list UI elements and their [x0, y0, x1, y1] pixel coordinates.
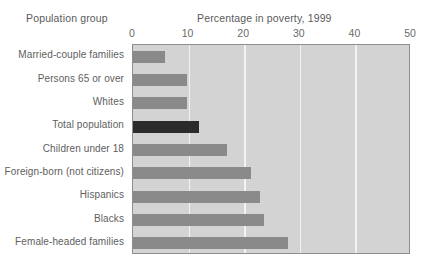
category-label: Female-headed families — [15, 236, 124, 247]
category-label: Whites — [93, 96, 124, 107]
x-tick-label: 40 — [349, 27, 361, 39]
category-label: Hispanics — [80, 189, 124, 200]
x-tick-label: 10 — [182, 27, 194, 39]
bar — [133, 74, 187, 86]
bar — [133, 167, 251, 179]
category-labels: Married-couple familiesPersons 65 or ove… — [0, 44, 128, 254]
category-label: Children under 18 — [43, 143, 124, 154]
x-tick-label: 20 — [237, 27, 249, 39]
poverty-bar-chart-figure: Population group Percentage in poverty, … — [0, 0, 425, 277]
x-tick-label: 0 — [129, 27, 135, 39]
category-label: Total population — [52, 119, 124, 130]
category-label: Blacks — [94, 213, 124, 224]
bar — [133, 237, 288, 249]
bar — [133, 97, 187, 109]
x-tick-label: 30 — [293, 27, 305, 39]
category-label: Married-couple families — [18, 49, 124, 60]
category-label: Foreign-born (not citizens) — [5, 166, 124, 177]
bar — [133, 214, 264, 226]
bar — [133, 51, 165, 63]
x-axis-tick-labels: 01020304050 — [0, 27, 425, 42]
plot-area — [132, 44, 410, 254]
chart-title: Percentage in poverty, 1999 — [197, 12, 332, 24]
bars-layer — [133, 45, 409, 253]
bar — [133, 191, 260, 203]
bar — [133, 121, 199, 133]
bar — [133, 144, 227, 156]
population-group-header: Population group — [26, 12, 108, 24]
category-label: Persons 65 or over — [38, 73, 124, 84]
x-tick-label: 50 — [404, 27, 416, 39]
